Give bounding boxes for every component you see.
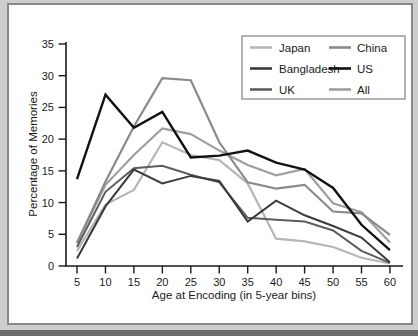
y-tick-label: 35 — [42, 38, 54, 50]
scan-edge-strip — [0, 330, 418, 336]
x-tick-label: 30 — [213, 276, 225, 288]
x-tick-label: 5 — [74, 276, 80, 288]
y-tick-label: 15 — [42, 165, 54, 177]
y-tick-label: 10 — [42, 197, 54, 209]
legend-label-uk: UK — [279, 84, 295, 96]
legend-label-us: US — [357, 63, 373, 75]
x-tick-label: 45 — [298, 276, 310, 288]
series-line-bangladesh — [77, 170, 390, 263]
x-tick-label: 40 — [270, 276, 282, 288]
y-tick-label: 0 — [48, 260, 54, 272]
y-tick-label: 25 — [42, 101, 54, 113]
y-tick-label: 20 — [42, 133, 54, 145]
x-tick-label: 20 — [156, 276, 168, 288]
x-tick-label: 15 — [128, 276, 140, 288]
x-axis-title: Age at Encoding (in 5-year bins) — [152, 289, 316, 301]
y-axis-title: Percentage of Memories — [27, 91, 39, 217]
series-line-uk — [77, 166, 390, 263]
legend-label-all: All — [357, 84, 370, 96]
x-tick-label: 55 — [355, 276, 367, 288]
x-tick-label: 25 — [185, 276, 197, 288]
y-tick-label: 30 — [42, 70, 54, 82]
chart-canvas: 0510152025303551015202530354045505560Per… — [0, 0, 418, 336]
memory-lifespan-chart: 0510152025303551015202530354045505560Per… — [0, 0, 418, 336]
x-tick-label: 10 — [99, 276, 111, 288]
y-tick-label: 5 — [48, 228, 54, 240]
x-tick-label: 60 — [384, 276, 396, 288]
legend-label-china: China — [357, 42, 388, 54]
x-tick-label: 50 — [327, 276, 339, 288]
series-line-china — [77, 78, 390, 243]
x-tick-label: 35 — [242, 276, 254, 288]
legend-label-japan: Japan — [279, 42, 310, 54]
